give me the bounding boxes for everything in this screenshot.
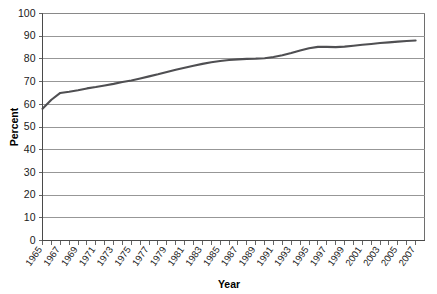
y-tick-label-70: 70 [24,75,36,87]
y-tick-label-60: 60 [24,98,36,110]
chart-canvas: 0102030405060708090100 19651967196919711… [0,0,437,294]
y-tick-label-80: 80 [24,52,36,64]
y-tick-label-30: 30 [24,166,36,178]
y-tick-label-10: 10 [24,211,36,223]
y-tick-label-20: 20 [24,188,36,200]
y-axis-title: Percent [8,107,20,146]
y-tick-label-50: 50 [24,120,36,132]
x-axis-title: Year [218,278,240,290]
line-chart: 0102030405060708090100 19651967196919711… [0,0,437,294]
y-tick-label-40: 40 [24,143,36,155]
y-tick-label-0: 0 [30,234,36,246]
y-tick-label-100: 100 [18,7,36,19]
y-tick-label-90: 90 [24,29,36,41]
